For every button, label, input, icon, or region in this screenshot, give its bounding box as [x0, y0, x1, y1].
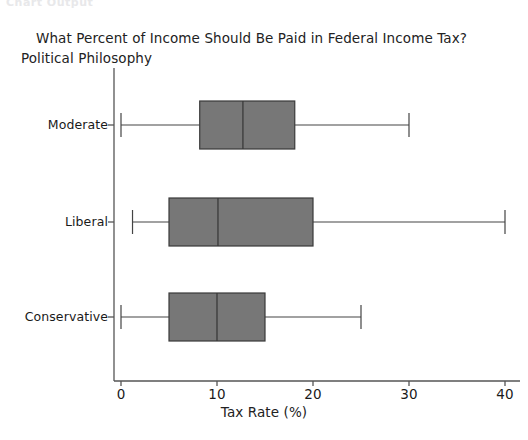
x-tick-label-0: 0 [101, 386, 141, 402]
x-tick-label-40: 40 [485, 386, 525, 402]
category-label: Liberal [65, 214, 108, 229]
y-tick-label-liberal: Liberal [0, 214, 108, 230]
y-axis-label: Political Philosophy [21, 50, 152, 66]
category-label: Moderate [48, 117, 108, 132]
x-tick-label-30: 30 [389, 386, 429, 402]
x-tick-label-20: 20 [293, 386, 333, 402]
x-tick-label-10: 10 [197, 386, 237, 402]
box-plot-chart: Chart Output What Percent of Income Shou… [0, 0, 528, 440]
faint-header-text: Chart Output [6, 0, 93, 9]
category-label: Conservative [25, 309, 108, 324]
y-tick-label-conservative: Conservative [0, 309, 108, 325]
box-moderate[interactable] [200, 101, 295, 149]
y-tick-label-moderate: Moderate [0, 117, 108, 133]
x-axis-label: Tax Rate (%) [0, 404, 528, 420]
chart-title: What Percent of Income Should Be Paid in… [36, 30, 467, 46]
box-liberal[interactable] [169, 198, 313, 246]
